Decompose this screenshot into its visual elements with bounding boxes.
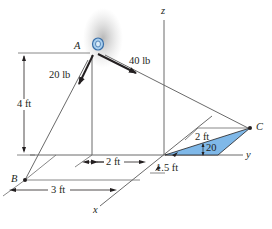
statics-diagram <box>0 0 272 229</box>
label-angle: 20 <box>206 143 217 154</box>
label-force-20lb: 20 lb <box>49 70 70 81</box>
rope-a-c <box>105 55 250 129</box>
b-to-origin-line <box>25 155 56 180</box>
label-x-axis: x <box>93 205 98 216</box>
force-arrow-20lb <box>79 55 93 84</box>
label-plate-length: 2 ft <box>195 132 209 143</box>
label-a: A <box>74 41 80 52</box>
label-c: C <box>256 122 263 133</box>
ring-icon <box>93 38 104 50</box>
label-height: 4 ft <box>17 99 31 110</box>
ground-tick-2ft <box>75 155 92 167</box>
label-y-axis: y <box>246 150 251 161</box>
point-b <box>23 178 27 182</box>
label-3ft: 3 ft <box>51 185 65 196</box>
label-b: B <box>11 174 17 185</box>
point-c <box>248 126 252 130</box>
label-z-axis: z <box>161 6 165 17</box>
label-force-40lb: 40 lb <box>129 56 150 67</box>
label-1-5ft: 1.5 ft <box>156 163 178 174</box>
smoke-shading <box>83 8 123 68</box>
label-2ft: 2 ft <box>106 157 120 168</box>
